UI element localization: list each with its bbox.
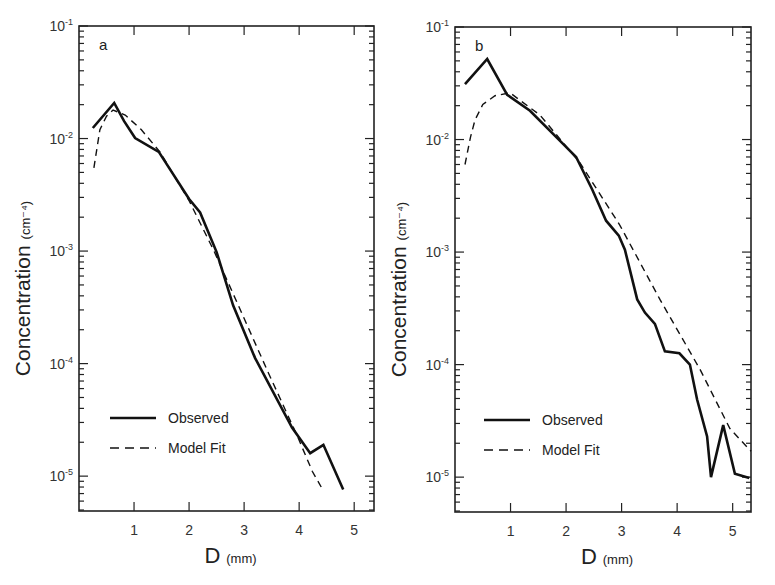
y-tick-label: 10-1 (49, 17, 73, 34)
y-tick-base: 10 (49, 131, 65, 147)
y-axis-unit: (cm⁻⁴) (394, 202, 409, 241)
legend-label: Model Fit (168, 440, 226, 456)
y-tick-base: 10 (49, 468, 65, 484)
y-tick-base: 10 (49, 243, 65, 259)
y-tick-base: 10 (49, 18, 65, 34)
y-tick-base: 10 (425, 357, 441, 373)
y-tick-label: 10-3 (49, 242, 73, 259)
x-axis-unit: (mm) (226, 551, 256, 566)
x-axis-symbol: D (581, 544, 597, 569)
y-tick-label: 10-4 (49, 355, 73, 372)
y-tick-exponent: -1 (441, 18, 449, 28)
y-tick-exponent: -4 (65, 355, 73, 365)
y-axis-title: Concentration (387, 246, 410, 377)
observed-line (93, 103, 343, 490)
y-tick-exponent: -1 (65, 17, 73, 27)
y-tick-exponent: -2 (441, 131, 449, 141)
x-tick-label: 3 (618, 523, 626, 539)
y-tick-label: 10-4 (425, 356, 449, 373)
model-fit-line (94, 110, 321, 487)
y-axis-title: Concentration (11, 245, 34, 376)
x-tick-label: 5 (729, 523, 737, 539)
x-tick-label: 2 (185, 522, 193, 538)
x-tick-label: 3 (240, 522, 248, 538)
x-axis-symbol: D (204, 543, 220, 568)
y-tick-label: 10-1 (425, 18, 449, 35)
x-tick-label: 2 (562, 523, 570, 539)
legend-label: Model Fit (542, 442, 600, 458)
legend-label: Observed (542, 412, 603, 428)
y-tick-exponent: -3 (441, 243, 449, 253)
y-tick-exponent: -5 (441, 468, 449, 478)
y-tick-label: 10-5 (425, 468, 449, 485)
x-axis-label: D(mm) (581, 544, 633, 569)
y-tick-label: 10-2 (49, 130, 73, 147)
model-fit-line (465, 93, 751, 451)
y-tick-base: 10 (49, 356, 65, 372)
panel-label: b (475, 37, 483, 54)
x-tick-label: 4 (673, 523, 681, 539)
legend: ObservedModel Fit (484, 412, 603, 458)
x-tick-label: 5 (350, 522, 358, 538)
y-axis-label: Concentration(cm⁻⁴) (387, 202, 410, 377)
x-tick-label: 4 (295, 522, 303, 538)
legend-label: Observed (168, 410, 229, 426)
panel-label: a (99, 36, 108, 53)
x-tick-label: 1 (130, 522, 138, 538)
y-tick-exponent: -4 (441, 356, 449, 366)
panel-a: 10-110-210-310-410-512345D(mm)Concentrat… (11, 17, 374, 568)
x-axis-label: D(mm) (204, 543, 256, 568)
x-axis-unit: (mm) (603, 552, 633, 567)
y-tick-base: 10 (425, 244, 441, 260)
y-tick-label: 10-2 (425, 131, 449, 148)
observed-line (465, 59, 749, 478)
y-tick-label: 10-5 (49, 467, 73, 484)
y-tick-exponent: -5 (65, 467, 73, 477)
plot-frame (79, 26, 374, 511)
y-tick-base: 10 (425, 469, 441, 485)
y-axis-unit: (cm⁻⁴) (18, 201, 33, 240)
y-axis-label: Concentration(cm⁻⁴) (11, 201, 34, 376)
y-tick-base: 10 (425, 19, 441, 35)
y-tick-label: 10-3 (425, 243, 449, 260)
figure: 10-110-210-310-410-512345D(mm)Concentrat… (0, 0, 775, 585)
panel-b: 10-110-210-310-410-512345D(mm)Concentrat… (387, 18, 751, 569)
y-tick-exponent: -2 (65, 130, 73, 140)
y-tick-base: 10 (425, 132, 441, 148)
y-ticks (79, 26, 374, 510)
legend: ObservedModel Fit (110, 410, 229, 456)
y-tick-exponent: -3 (65, 242, 73, 252)
x-tick-label: 1 (507, 523, 515, 539)
